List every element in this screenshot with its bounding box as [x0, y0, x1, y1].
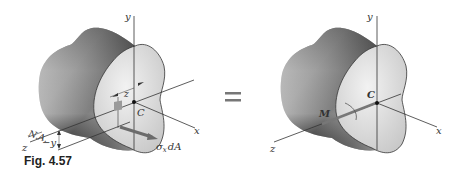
equals-sign: [225, 92, 241, 102]
z-axis-label: z: [269, 143, 276, 154]
area-element: [114, 100, 122, 110]
force-label: σxdA: [156, 141, 181, 154]
y-axis-label: y: [366, 11, 373, 22]
minus-y-label: −y: [42, 137, 56, 148]
left-beam-figure: y x z C N.A. −y z σxdA: [21, 11, 200, 154]
centroid-point: [375, 101, 379, 105]
right-beam-figure: y x z C M: [269, 11, 442, 154]
centroid-label: C: [367, 89, 375, 100]
centroid-label: C: [137, 107, 145, 118]
figure-caption: Fig. 4.57: [24, 154, 72, 168]
centroid-point: [132, 100, 136, 104]
y-dim-arrow-down-icon: [57, 144, 61, 149]
moment-label: M: [318, 108, 331, 119]
z-axis-label: z: [21, 142, 28, 153]
x-axis-label: x: [194, 125, 200, 136]
beam-equivalence-diagram: y x z C N.A. −y z σxdA y x z C M: [0, 0, 469, 177]
y-axis-label: y: [124, 11, 131, 22]
z-distance-label: z: [123, 89, 129, 99]
x-axis-label: x: [436, 125, 442, 136]
